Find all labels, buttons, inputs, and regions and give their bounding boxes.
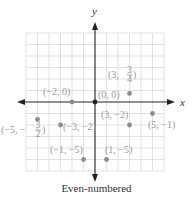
svg-text:(−5, −: (−5, − bbox=[1, 124, 26, 136]
point-label-3-neg2: (3, −2) bbox=[101, 109, 128, 121]
point-label-neg3-neg2: (−3, −2) bbox=[63, 121, 96, 133]
point-label-1-neg5: (1, −5) bbox=[105, 144, 132, 156]
caption: Even-numbered bbox=[0, 182, 193, 194]
x-axis-label: x bbox=[179, 96, 185, 108]
point-label-0-0: (0, 0) bbox=[98, 89, 120, 101]
arrow-right-icon bbox=[167, 99, 175, 105]
point-label-neg5-neg3/2: (−5, − 3 2 ) bbox=[1, 119, 45, 139]
y-axis-label: y bbox=[91, 5, 97, 17]
svg-text:): ) bbox=[133, 69, 136, 81]
arrow-left-icon bbox=[17, 99, 25, 105]
point-0-0 bbox=[93, 100, 98, 105]
svg-text:(3,: (3, bbox=[108, 69, 119, 81]
coordinate-plane: x y (3, 3 4 ) (−2, 0) (0, 0) (3, −2) (5,… bbox=[0, 0, 193, 199]
point-label-3-3/4: (3, 3 4 ) bbox=[108, 64, 136, 84]
point-5-neg1 bbox=[150, 111, 155, 116]
point-3-neg2 bbox=[127, 123, 132, 128]
svg-text:2: 2 bbox=[36, 128, 41, 139]
point-label-5-neg1: (5, −1) bbox=[148, 119, 175, 131]
point-label-neg2-0: (−2, 0) bbox=[43, 86, 70, 98]
arrow-up-icon bbox=[92, 22, 98, 30]
svg-text:4: 4 bbox=[127, 73, 132, 84]
point-neg1-neg5 bbox=[81, 157, 86, 162]
point-1-neg5 bbox=[104, 157, 109, 162]
arrow-down-icon bbox=[92, 174, 98, 182]
point-label-neg1-neg5: (−1, −5) bbox=[50, 144, 83, 156]
svg-text:): ) bbox=[42, 124, 45, 136]
point-neg2-0 bbox=[70, 100, 75, 105]
point-3-3/4 bbox=[127, 91, 132, 96]
